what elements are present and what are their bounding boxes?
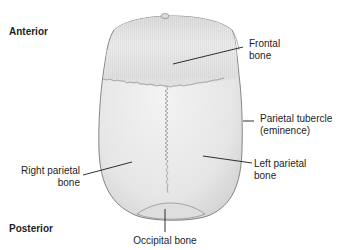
- left-parietal-label-line2: bone: [254, 170, 306, 182]
- anterior-label: Anterior: [9, 26, 48, 38]
- left-parietal-label-line1: Left parietal: [254, 158, 306, 170]
- parietal-tubercle-label: Parietal tubercle (eminence): [260, 113, 332, 137]
- bregma-nub: [161, 14, 169, 19]
- parietal-tubercle-label-line2: (eminence): [260, 125, 332, 137]
- parietal-tubercle-label-line1: Parietal tubercle: [260, 113, 332, 125]
- frontal-bone-label-line1: Frontal: [249, 38, 280, 50]
- right-parietal-label-line1: Right parietal: [10, 165, 80, 177]
- right-parietal-label-line2: bone: [10, 177, 80, 189]
- occipital-bone-label: Occipital bone: [120, 235, 210, 247]
- left-parietal-label: Left parietal bone: [254, 158, 306, 182]
- frontal-bone-label-line2: bone: [249, 50, 280, 62]
- right-parietal-label: Right parietal bone: [10, 165, 80, 189]
- frontal-texture: [104, 16, 238, 79]
- frontal-bone-label: Frontal bone: [249, 38, 280, 62]
- posterior-label: Posterior: [9, 223, 53, 235]
